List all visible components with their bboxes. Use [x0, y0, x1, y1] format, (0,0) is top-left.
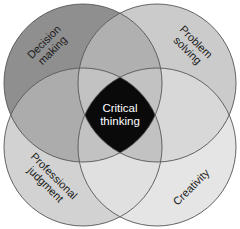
label-critical-thinking: Critical thinking [100, 102, 140, 127]
venn-diagram: Decision making Problem solving Professi… [0, 0, 240, 229]
svg-text:Critical: Critical [102, 102, 137, 114]
svg-text:thinking: thinking [100, 115, 140, 127]
